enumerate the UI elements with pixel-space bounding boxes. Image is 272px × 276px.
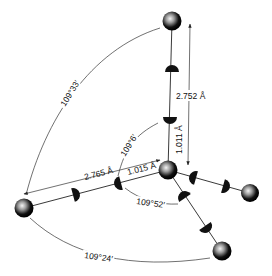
bond-top <box>168 21 172 170</box>
label-distance-1011: 1.011 Å <box>174 125 184 154</box>
atom-bottom <box>213 242 232 261</box>
label-angle-109-24: 109°24′ <box>84 250 114 264</box>
hydrogen-right-inner <box>187 169 198 184</box>
hydrogen-top-lower <box>163 117 177 124</box>
label-distance-2765: 2.765 Å <box>83 165 114 182</box>
label-angle-109-52: 109°52′ <box>136 196 166 210</box>
label-distance-2752: 2.752 Å <box>176 91 206 101</box>
bond-right <box>168 170 250 193</box>
atom-right <box>241 184 259 202</box>
label-angle-109-6: 109°6′ <box>118 132 139 158</box>
atom-top <box>163 12 182 31</box>
atom-left <box>15 199 34 218</box>
hydrogen-top-upper <box>165 65 179 72</box>
atom-center <box>159 161 178 180</box>
ice-structure-diagram: 2.752 Å 1.011 Å 2.765 Å 1.015 Å 109°33′ … <box>0 0 272 276</box>
hydrogen-bottom-outer <box>199 222 215 236</box>
hydrogen-bottom-inner <box>175 188 191 202</box>
bond-bottom <box>168 170 222 251</box>
label-angle-109-33: 109°33′ <box>58 78 82 108</box>
angle-arc-109-24 <box>30 218 210 262</box>
hydrogen-left-outer <box>71 186 81 201</box>
